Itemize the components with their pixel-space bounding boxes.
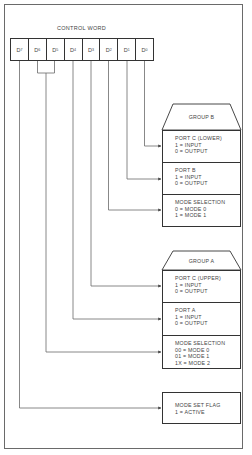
port-c-lower-box: PORT C (LOWER) 1 = INPUT 0 = OUTPUT [162,130,241,163]
bit-d2: D2 [100,39,118,60]
bit-d6: D6 [29,39,47,60]
port-c-upper-box: PORT C (UPPER) 1 = INPUT 0 = OUTPUT [162,270,241,303]
bit-d4: D4 [65,39,83,60]
bit-d1: D1 [118,39,136,60]
wire-d7 [20,61,162,408]
connection-wires [0,0,252,455]
bit-d0: D0 [136,39,153,60]
port-b-box: PORT B 1 = INPUT 0 = OUTPUT [162,162,241,195]
wire-d4 [73,61,161,319]
group-a-label: GROUP A [162,258,241,264]
port-a-box: PORT A 1 = INPUT 0 = OUTPUT [162,302,241,336]
wire-d2 [109,61,162,210]
control-word-register: D7 D6 D5 D4 D3 D2 D1 D0 [10,38,154,61]
control-word-title: CONTROL WORD [10,25,153,31]
wire-d1 [127,61,161,179]
wire-d0 [145,61,162,146]
group-b-mode-selection-box: MODE SELECTION 0 = MODE 0 1 = MODE 1 [162,194,241,227]
bit-d3: D3 [83,39,101,60]
mode-set-flag-box: MODE SET FLAG 1 = ACTIVE [162,392,241,424]
group-b-label: GROUP B [162,114,241,120]
wire-d6-d5 [46,73,161,352]
bracket-d6-d5 [38,61,55,73]
bit-d7: D7 [11,39,29,60]
bit-d5: D5 [47,39,65,60]
wire-d3 [91,61,161,286]
group-a-mode-selection-box: MODE SELECTION 00 = MODE 0 01 = MODE 1 1… [162,335,241,369]
